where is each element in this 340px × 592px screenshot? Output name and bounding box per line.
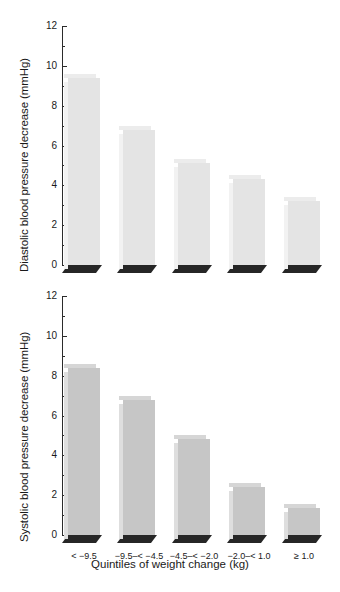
y-axis-tick-label: 8: [41, 370, 57, 381]
bar-base-shadow: [282, 265, 322, 273]
y-axis-tick-label: 10: [41, 60, 57, 71]
chart-panel-diastolic: Diastolic blood pressure decrease (mmHg)…: [0, 0, 340, 290]
x-axis-title: Quintiles of weight change (kg): [0, 558, 340, 570]
bar: [123, 400, 155, 535]
bar-base-shadow: [62, 265, 102, 273]
bar-base-shadow: [227, 265, 267, 273]
bar-base-shadow: [117, 265, 157, 273]
y-axis-tick-label: 8: [41, 100, 57, 111]
bar-front-face: [288, 508, 320, 535]
bar-base-slab: [117, 535, 157, 543]
y-axis-title-diastolic: Diastolic blood pressure decrease (mmHg): [18, 58, 30, 272]
y-axis-top-cap: [62, 26, 67, 27]
bar-base-shadow: [172, 265, 212, 273]
bar-base-shadow: [172, 535, 212, 543]
bar-base-slab: [62, 265, 102, 273]
y-axis-tick-minor: [62, 46, 65, 47]
bar-base-slab: [227, 265, 267, 273]
bar: [68, 368, 100, 535]
y-axis-top-cap: [62, 296, 67, 297]
bar: [233, 179, 265, 265]
y-axis-tick-label: 0: [41, 259, 57, 270]
chart-panel-systolic: Systolic blood pressure decrease (mmHg) …: [0, 290, 340, 592]
bar-front-face: [178, 439, 210, 535]
bar-base-shadow: [282, 535, 322, 543]
y-axis-tick-label: 2: [41, 219, 57, 230]
bar-base-slab: [117, 265, 157, 273]
bar: [178, 163, 210, 265]
bar-front-face: [123, 130, 155, 265]
y-axis-tick-minor: [62, 316, 65, 317]
bar-base-slab: [172, 535, 212, 543]
bar-front-face: [123, 400, 155, 535]
bar: [288, 201, 320, 265]
bar: [123, 130, 155, 265]
y-axis-tick-label: 10: [41, 330, 57, 341]
y-axis-tick-label: 6: [41, 410, 57, 421]
y-axis-tick-label: 0: [41, 529, 57, 540]
bar-base-shadow: [227, 535, 267, 543]
bar-base-slab: [282, 265, 322, 273]
bar-base-shadow: [117, 535, 157, 543]
bar-base-shadow: [62, 535, 102, 543]
figure: Diastolic blood pressure decrease (mmHg)…: [0, 0, 340, 592]
y-axis-tick-label: 4: [41, 179, 57, 190]
y-axis-title-systolic: Systolic blood pressure decrease (mmHg): [18, 332, 30, 542]
y-axis-tick-label: 4: [41, 449, 57, 460]
bar-front-face: [233, 179, 265, 265]
y-axis-tick-label: 12: [41, 290, 57, 301]
bar: [288, 508, 320, 535]
y-axis-tick-major: [62, 336, 67, 337]
y-axis-tick-major: [62, 66, 67, 67]
bar-front-face: [288, 201, 320, 265]
bar-front-face: [68, 368, 100, 535]
bar-front-face: [233, 487, 265, 535]
bar-front-face: [178, 163, 210, 265]
y-axis-tick-label: 2: [41, 489, 57, 500]
bar: [68, 78, 100, 265]
bar-base-slab: [282, 535, 322, 543]
y-axis-tick-minor: [62, 356, 65, 357]
bar-base-slab: [227, 535, 267, 543]
bar-front-face: [68, 78, 100, 265]
bar: [233, 487, 265, 535]
bar-base-slab: [172, 265, 212, 273]
bar-base-slab: [62, 535, 102, 543]
y-axis-tick-label: 6: [41, 140, 57, 151]
y-axis-tick-label: 12: [41, 20, 57, 31]
bar: [178, 439, 210, 535]
